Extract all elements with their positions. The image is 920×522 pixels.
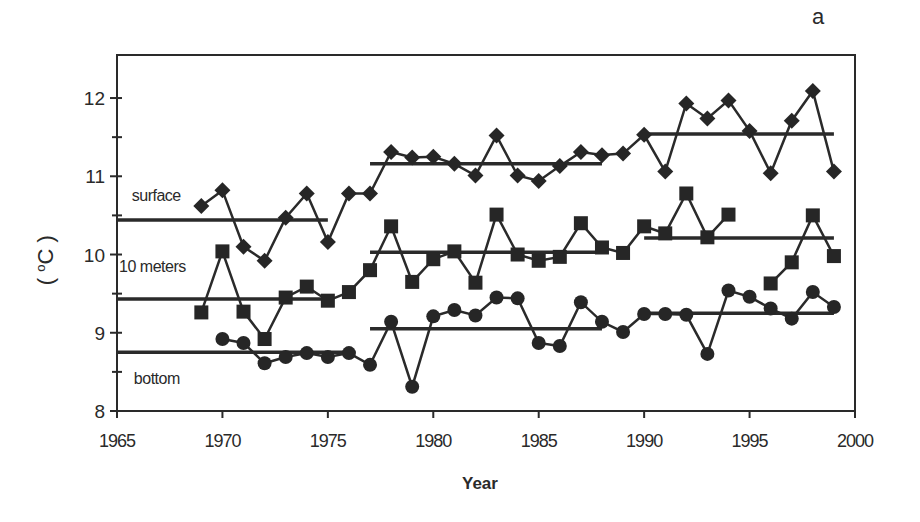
x-axis-label: Year bbox=[462, 474, 498, 494]
square-marker bbox=[553, 250, 567, 264]
diamond-marker bbox=[531, 173, 547, 189]
x-tick-label: 1995 bbox=[732, 431, 769, 451]
diamond-marker bbox=[678, 96, 694, 112]
diamond-marker bbox=[594, 147, 610, 163]
square-marker bbox=[321, 294, 335, 308]
circle-marker bbox=[321, 350, 335, 364]
circle-marker bbox=[342, 346, 356, 360]
diamond-marker bbox=[383, 144, 399, 160]
line-chart: 8910111219651970197519801985199019952000… bbox=[0, 0, 920, 522]
circle-marker bbox=[511, 291, 525, 305]
circle-marker bbox=[426, 309, 440, 323]
square-marker bbox=[679, 186, 693, 200]
circle-marker bbox=[405, 380, 419, 394]
square-marker bbox=[827, 249, 841, 263]
x-tick-label: 1980 bbox=[415, 431, 452, 451]
diamond-marker bbox=[573, 144, 589, 160]
y-tick-label: 11 bbox=[85, 166, 105, 187]
square-marker bbox=[764, 276, 778, 290]
square-marker bbox=[363, 263, 377, 277]
diamond-marker bbox=[805, 83, 821, 99]
circle-marker bbox=[215, 332, 229, 346]
square-marker bbox=[279, 291, 293, 305]
x-tick-label: 1985 bbox=[521, 431, 558, 451]
circle-marker bbox=[616, 325, 630, 339]
square-marker bbox=[237, 305, 251, 319]
square-marker bbox=[721, 208, 735, 222]
square-marker bbox=[384, 219, 398, 233]
circle-marker bbox=[363, 358, 377, 372]
circle-marker bbox=[279, 350, 293, 364]
circle-marker bbox=[595, 315, 609, 329]
square-marker bbox=[447, 244, 461, 258]
circle-marker bbox=[237, 336, 251, 350]
diamond-marker bbox=[552, 158, 568, 174]
diamond-marker bbox=[763, 165, 779, 181]
diamond-marker bbox=[467, 167, 483, 183]
circle-marker bbox=[637, 307, 651, 321]
diamond-marker bbox=[826, 164, 842, 180]
circle-marker bbox=[258, 356, 272, 370]
diamond-marker bbox=[446, 156, 462, 172]
series-label-10-meters: 10 meters bbox=[119, 258, 186, 275]
y-tick-label: 12 bbox=[84, 88, 105, 109]
circle-marker bbox=[721, 284, 735, 298]
circle-marker bbox=[468, 309, 482, 323]
y-tick-label: 9 bbox=[94, 323, 105, 344]
circle-marker bbox=[658, 307, 672, 321]
diamond-marker bbox=[341, 185, 357, 201]
x-tick-label: 2000 bbox=[837, 431, 874, 451]
circle-marker bbox=[490, 291, 504, 305]
x-tick-label: 1990 bbox=[626, 431, 663, 451]
diamond-marker bbox=[236, 239, 252, 255]
square-marker bbox=[637, 219, 651, 233]
square-marker bbox=[490, 208, 504, 222]
series-label-bottom: bottom bbox=[134, 370, 180, 387]
square-marker bbox=[532, 254, 546, 268]
x-tick-label: 1965 bbox=[99, 431, 136, 451]
square-marker bbox=[258, 332, 272, 346]
square-marker bbox=[574, 216, 588, 230]
square-marker bbox=[700, 230, 714, 244]
y-axis-label: ( oC ) bbox=[33, 230, 59, 290]
square-marker bbox=[595, 240, 609, 254]
series-labels: surface10 metersbottom bbox=[119, 187, 186, 387]
square-marker bbox=[785, 255, 799, 269]
series-line bbox=[222, 291, 834, 387]
square-marker bbox=[405, 275, 419, 289]
square-marker bbox=[300, 280, 314, 294]
circle-marker bbox=[827, 300, 841, 314]
diamond-marker bbox=[742, 123, 758, 139]
series-line bbox=[771, 215, 834, 283]
diamond-marker bbox=[784, 113, 800, 129]
square-marker bbox=[806, 208, 820, 222]
plot-frame bbox=[117, 55, 855, 411]
circle-marker bbox=[764, 302, 778, 316]
series-label-surface: surface bbox=[132, 187, 182, 204]
circle-marker bbox=[384, 315, 398, 329]
square-marker bbox=[215, 244, 229, 258]
square-marker bbox=[194, 305, 208, 319]
circle-marker bbox=[553, 339, 567, 353]
square-marker bbox=[616, 246, 630, 260]
circle-marker bbox=[300, 346, 314, 360]
y-tick-label: 10 bbox=[84, 245, 105, 266]
diamond-marker bbox=[362, 185, 378, 201]
circle-marker bbox=[785, 312, 799, 326]
square-marker bbox=[658, 226, 672, 240]
square-marker bbox=[342, 285, 356, 299]
diamond-marker bbox=[320, 234, 336, 250]
square-marker bbox=[511, 248, 525, 262]
circle-marker bbox=[679, 308, 693, 322]
diamond-marker bbox=[657, 164, 673, 180]
y-tick-label: 8 bbox=[94, 401, 105, 422]
diamond-marker bbox=[257, 253, 273, 269]
square-marker bbox=[468, 276, 482, 290]
circle-marker bbox=[743, 290, 757, 304]
circle-marker bbox=[447, 303, 461, 317]
x-tick-label: 1970 bbox=[204, 431, 241, 451]
diamond-marker bbox=[510, 167, 526, 183]
circle-marker bbox=[700, 347, 714, 361]
circle-marker bbox=[806, 285, 820, 299]
plot-border bbox=[117, 55, 855, 411]
